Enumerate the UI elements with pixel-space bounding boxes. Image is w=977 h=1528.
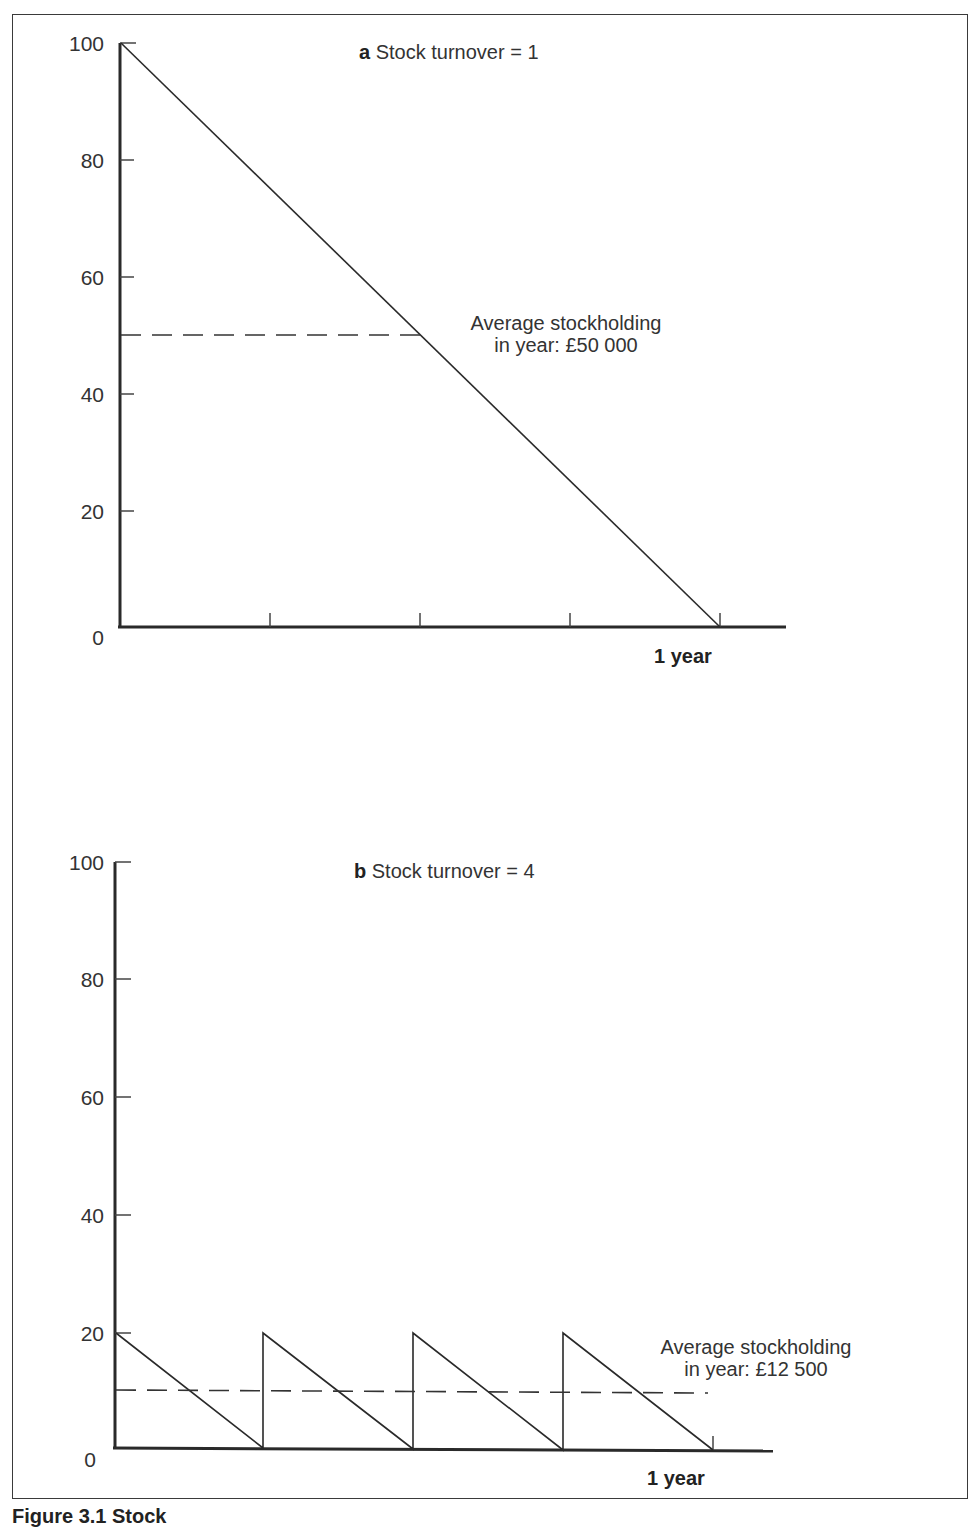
chart-b-ytick-80: 80 (54, 968, 104, 992)
chart-a-ytick-20: 20 (54, 500, 104, 524)
figure-caption: Figure 3.1 Stock (12, 1505, 167, 1528)
chart-a-panel-letter: a (359, 41, 370, 63)
chart-b-ytick-100: 100 (54, 851, 104, 875)
chart-b-annotation-line1: Average stockholding (636, 1336, 876, 1358)
chart-a-ytick-100: 100 (54, 32, 104, 56)
chart-b-title: b Stock turnover = 4 (354, 860, 535, 883)
chart-a-annotation-line2: in year: £50 000 (446, 334, 686, 356)
chart-a-title: a Stock turnover = 1 (359, 41, 539, 64)
chart-b-average-line (116, 1390, 708, 1393)
chart-b-ytick-40: 40 (54, 1204, 104, 1228)
chart-a-ytick-0: 0 (54, 626, 104, 650)
chart-a-annotation-line1: Average stockholding (446, 312, 686, 334)
chart-b-ytick-60: 60 (54, 1086, 104, 1110)
chart-b-xlabel: 1 year (647, 1467, 705, 1490)
chart-b-annotation: Average stockholding in year: £12 500 (636, 1336, 876, 1380)
chart-b-title-text: Stock turnover = 4 (372, 860, 535, 882)
chart-b-ytick-0: 0 (46, 1448, 96, 1472)
chart-b-x-axis (113, 1448, 773, 1451)
chart-a-ytick-40: 40 (54, 383, 104, 407)
chart-b-ytick-20: 20 (54, 1322, 104, 1346)
chart-a-annotation: Average stockholding in year: £50 000 (446, 312, 686, 356)
chart-b-panel-letter: b (354, 860, 366, 882)
chart-a-y-ticks (120, 43, 136, 511)
chart-a-title-text: Stock turnover = 1 (376, 41, 539, 63)
chart-a-ytick-80: 80 (54, 149, 104, 173)
chart-a-ytick-60: 60 (54, 266, 104, 290)
chart-a-x-ticks (270, 613, 720, 627)
chart-b-y-ticks (115, 862, 131, 1333)
chart-b-annotation-line2: in year: £12 500 (636, 1358, 876, 1380)
chart-a-xlabel: 1 year (654, 645, 712, 668)
